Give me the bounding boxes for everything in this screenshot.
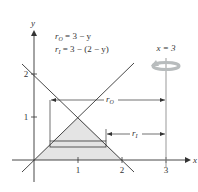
- shaded-region: [34, 117, 122, 160]
- equation-outer-radius: rO = 3 − y: [55, 31, 92, 42]
- inner-radius-arrow-right-icon: [160, 132, 165, 136]
- rotation-arrow-icon: [151, 60, 179, 70]
- y-axis-arrow-icon: [31, 30, 37, 36]
- y-tick-label-1: 1: [24, 112, 29, 122]
- outer-radius-arrow-left-icon: [51, 98, 56, 102]
- inner-radius-arrow-left-icon: [107, 132, 112, 136]
- x-axis-arrow-icon: [185, 157, 191, 163]
- revolution-diagram: 1 2 3 1 2 x y x = 3 rO = 3 − y rI = 3 − …: [0, 0, 198, 192]
- x-tick-label-2: 2: [120, 165, 125, 175]
- equation-inner-radius: rI = 3 − (2 − y): [55, 44, 109, 55]
- y-axis-label: y: [30, 18, 35, 28]
- x-axis-label: x: [192, 155, 197, 165]
- axis-of-revolution-label: x = 3: [155, 43, 176, 53]
- outer-radius-arrow-right-icon: [160, 98, 165, 102]
- y-tick-label-2: 2: [24, 69, 29, 79]
- x-tick-label-1: 1: [76, 165, 81, 175]
